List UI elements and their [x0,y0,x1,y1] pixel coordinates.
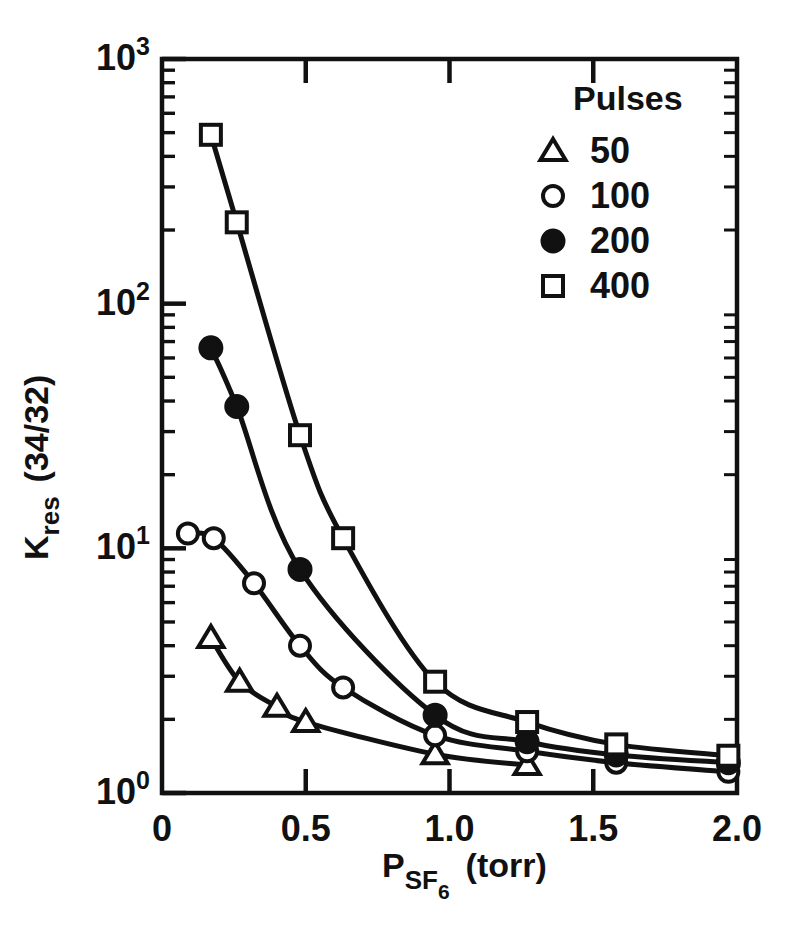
y-axis-label: Kres(34/32) [17,375,65,560]
data-point-200 [517,731,538,752]
data-point-400 [517,712,537,732]
log-line-chart: 10010110210300.51.01.52.0Pulses501002004… [0,0,795,936]
data-point-400 [606,734,626,754]
data-point-400 [718,746,738,766]
data-point-400 [227,212,247,232]
legend-label-100: 100 [590,175,650,216]
data-point-400 [201,125,221,145]
data-point-50 [198,626,223,647]
data-point-50 [264,695,289,716]
data-point-100 [244,573,264,593]
y-tick-label: 100 [96,766,150,812]
legend-marker-200 [543,231,564,252]
legend-label-200: 200 [590,220,650,261]
data-point-400 [333,528,353,548]
figure-canvas: 10010110210300.51.01.52.0Pulses501002004… [0,0,795,936]
y-tick-label: 102 [96,277,150,323]
x-tick-label: 0.5 [281,808,331,849]
x-tick-label: 2.0 [712,808,762,849]
series-line-100 [188,533,729,772]
data-point-200 [290,559,311,580]
x-tick-label: 0 [152,808,172,849]
y-tick-label: 101 [96,521,150,567]
x-axis-label: PSF6(torr) [382,846,547,903]
data-point-100 [425,725,445,745]
data-point-100 [290,636,310,656]
data-point-400 [425,672,445,692]
legend-title: Pulses [573,79,683,117]
legend-marker-50 [540,139,565,160]
series-line-200 [211,348,729,763]
legend-marker-100 [543,186,563,206]
data-point-200 [200,337,221,358]
data-point-400 [290,425,310,445]
y-tick-label: 103 [96,32,150,78]
legend-label-50: 50 [590,130,630,171]
legend-marker-400 [543,276,563,296]
data-point-200 [425,705,446,726]
x-tick-label: 1.5 [568,808,618,849]
data-point-100 [333,677,353,697]
legend-label-400: 400 [590,265,650,306]
x-tick-label: 1.0 [424,808,474,849]
data-point-100 [204,528,224,548]
data-point-200 [226,396,247,417]
data-point-100 [178,523,198,543]
